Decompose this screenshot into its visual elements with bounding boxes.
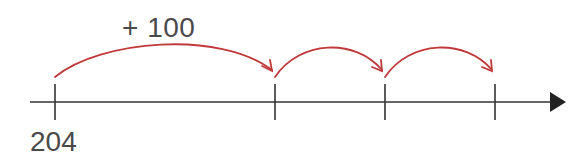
axis-arrowhead-icon (550, 92, 566, 112)
number-line-svg (0, 0, 577, 158)
jump-arc-1 (55, 44, 272, 77)
jump-arc-2 (275, 48, 382, 77)
jump-label: + 100 (122, 14, 195, 42)
start-value-label: 204 (30, 128, 77, 156)
number-line-diagram: + 100 204 (0, 0, 577, 158)
jump-arc-3 (385, 48, 492, 77)
